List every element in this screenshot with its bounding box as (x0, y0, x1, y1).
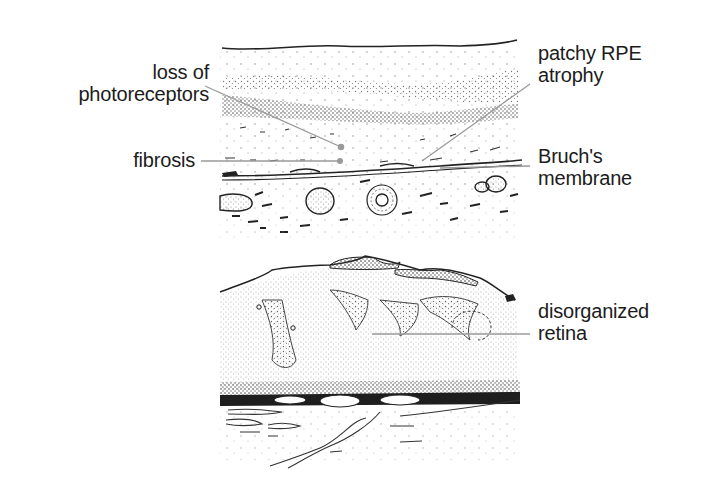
label-line: Bruch's (538, 145, 632, 167)
label-line: atrophy (538, 64, 642, 86)
label-loss-of-photoreceptors: loss of photoreceptors (78, 61, 209, 105)
label-line: disorganized (538, 300, 649, 322)
label-bruchs-membrane: Bruch's membrane (538, 145, 632, 189)
label-line: retina (538, 322, 649, 344)
bottom-panel-drawing (220, 256, 520, 468)
label-line: fibrosis (133, 149, 195, 171)
label-patchy-rpe-atrophy: patchy RPE atrophy (538, 42, 642, 86)
top-panel-drawing (220, 40, 522, 238)
label-line: photoreceptors (78, 83, 209, 105)
label-disorganized-retina: disorganized retina (538, 300, 649, 344)
label-line: membrane (538, 167, 632, 189)
label-line: patchy RPE (538, 42, 642, 64)
label-fibrosis: fibrosis (133, 149, 195, 171)
label-line: loss of (78, 61, 209, 83)
